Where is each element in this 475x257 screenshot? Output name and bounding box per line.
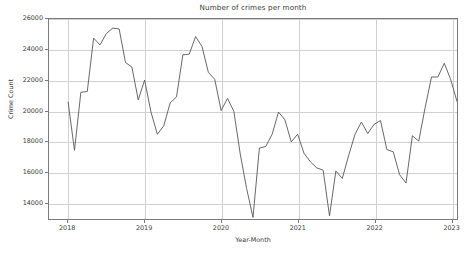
y-tick-label-16000: 16000: [1, 168, 43, 176]
x-tick-label-2021: 2021: [278, 224, 318, 232]
y-tick-label-22000: 22000: [1, 76, 43, 84]
x-tick-mark-2021: [298, 220, 299, 223]
chart-figure: Number of crimes per month Crime Count 1…: [0, 0, 475, 257]
x-tick-label-2023: 2023: [432, 224, 472, 232]
plot-area: [48, 18, 458, 220]
crime-count-line-series: [49, 19, 457, 219]
x-tick-label-2022: 2022: [355, 224, 395, 232]
x-tick-mark-2018: [67, 220, 68, 223]
x-tick-label-2020: 2020: [201, 224, 241, 232]
y-tick-label-18000: 18000: [1, 137, 43, 145]
y-tick-label-24000: 24000: [1, 45, 43, 53]
x-tick-mark-2022: [375, 220, 376, 223]
y-tick-label-26000: 26000: [1, 14, 43, 22]
x-tick-mark-2020: [221, 220, 222, 223]
x-tick-mark-2023: [452, 220, 453, 223]
x-tick-label-2018: 2018: [47, 224, 87, 232]
x-tick-label-2019: 2019: [124, 224, 164, 232]
y-tick-label-20000: 20000: [1, 107, 43, 115]
y-tick-label-14000: 14000: [1, 199, 43, 207]
x-tick-mark-2019: [144, 220, 145, 223]
chart-title: Number of crimes per month: [48, 3, 458, 12]
x-axis-label: Year-Month: [48, 236, 458, 244]
